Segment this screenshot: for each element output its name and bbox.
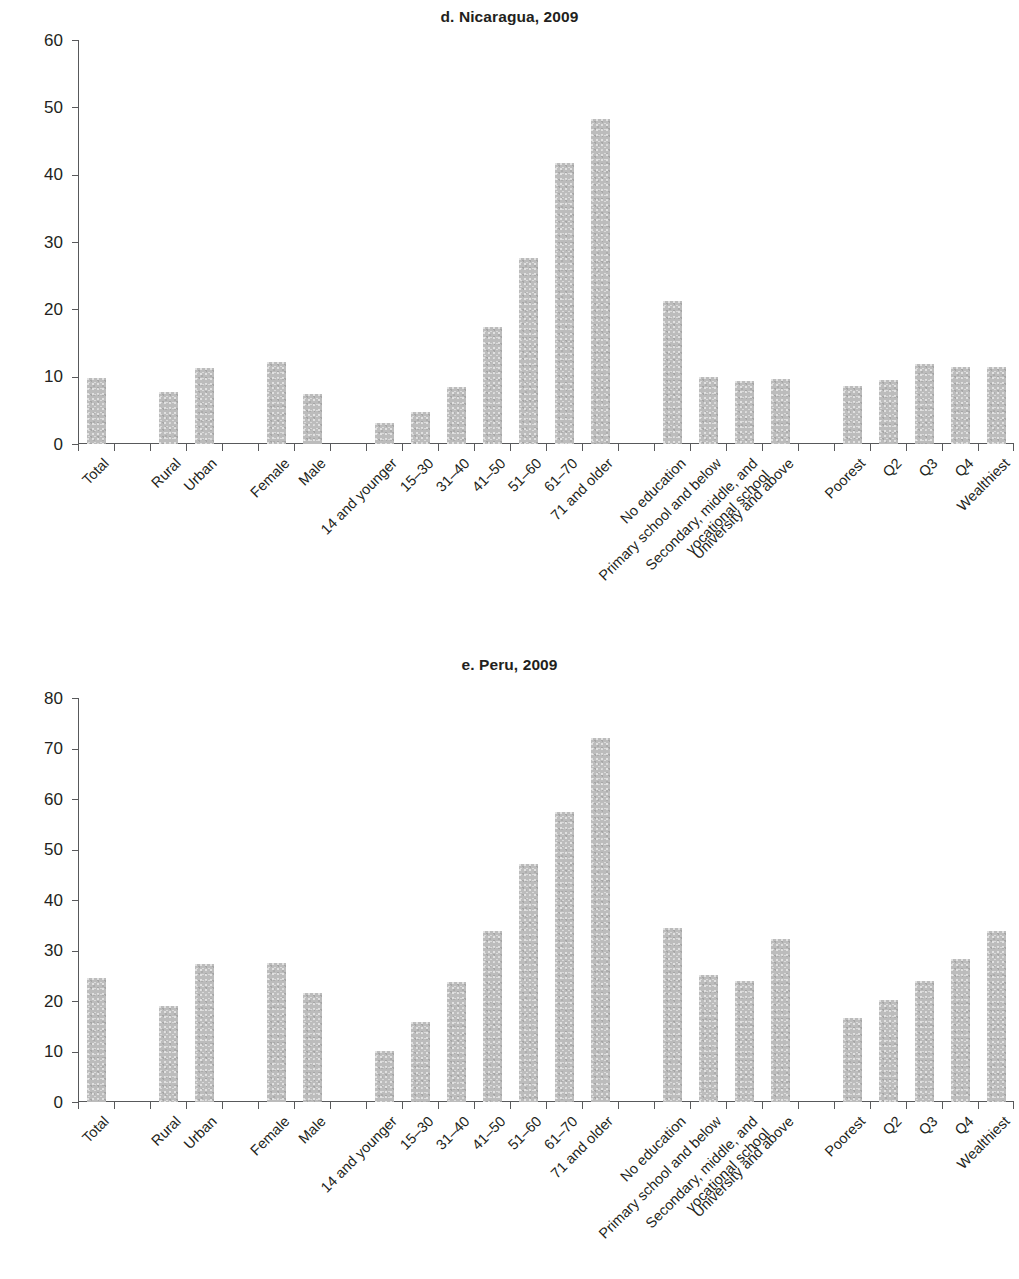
y-axis-tick-label-nicaragua: 50 bbox=[44, 98, 63, 118]
x-axis-tick-peru bbox=[294, 1102, 295, 1109]
bar-peru-age bbox=[519, 864, 538, 1102]
y-axis-tick-nicaragua: 40 bbox=[72, 175, 78, 176]
y-axis-tick-label-peru: 30 bbox=[44, 941, 63, 961]
x-axis-tick-nicaragua bbox=[978, 444, 979, 451]
x-axis-tick-peru bbox=[870, 1102, 871, 1109]
x-axis-tick-nicaragua bbox=[114, 444, 115, 451]
x-axis-label-nicaragua: Total bbox=[79, 455, 113, 489]
y-axis-tick-label-nicaragua: 60 bbox=[44, 31, 63, 51]
bar-peru-age bbox=[447, 982, 466, 1102]
y-axis-tick-label-nicaragua: 30 bbox=[44, 233, 63, 253]
bar-nicaragua-residence bbox=[159, 392, 178, 444]
y-axis-line-peru bbox=[78, 698, 79, 1102]
x-axis-tick-peru bbox=[906, 1102, 907, 1109]
bar-peru-sex bbox=[267, 963, 286, 1102]
y-axis-tick-label-nicaragua: 40 bbox=[44, 165, 63, 185]
x-axis-tick-peru bbox=[1013, 1102, 1014, 1109]
x-axis-label-nicaragua: Q2 bbox=[880, 455, 906, 481]
bar-nicaragua-age bbox=[411, 412, 430, 444]
y-axis-tick-peru: 20 bbox=[72, 1001, 78, 1002]
bar-peru-education bbox=[735, 981, 754, 1102]
y-axis-tick-label-peru: 10 bbox=[44, 1042, 63, 1062]
x-axis-tick-nicaragua bbox=[258, 444, 259, 451]
x-axis-tick-nicaragua bbox=[618, 444, 619, 451]
y-axis-tick-nicaragua: 30 bbox=[72, 242, 78, 243]
x-axis-tick-peru bbox=[762, 1102, 763, 1109]
x-axis-tick-nicaragua bbox=[510, 444, 511, 451]
x-axis-tick-peru bbox=[402, 1102, 403, 1109]
bar-peru-education bbox=[663, 928, 682, 1102]
x-axis-tick-peru bbox=[474, 1102, 475, 1109]
y-axis-tick-label-peru: 40 bbox=[44, 891, 63, 911]
bar-nicaragua-age bbox=[555, 163, 574, 444]
bar-nicaragua-wealth bbox=[987, 367, 1006, 444]
x-axis-tick-peru bbox=[78, 1102, 79, 1109]
x-axis-tick-peru bbox=[258, 1102, 259, 1109]
x-axis-tick-peru bbox=[726, 1102, 727, 1109]
x-axis-tick-peru bbox=[798, 1102, 799, 1109]
x-axis-tick-nicaragua bbox=[474, 444, 475, 451]
bar-peru-education bbox=[699, 975, 718, 1102]
x-axis-tick-peru bbox=[546, 1102, 547, 1109]
x-axis-tick-peru bbox=[510, 1102, 511, 1109]
x-axis-label-nicaragua: Male bbox=[295, 455, 329, 489]
y-axis-tick-peru: 50 bbox=[72, 850, 78, 851]
y-axis-tick-label-peru: 80 bbox=[44, 689, 63, 709]
bar-nicaragua-age bbox=[447, 387, 466, 444]
y-axis-tick-peru: 80 bbox=[72, 698, 78, 699]
bar-nicaragua-overall bbox=[87, 378, 106, 444]
bar-nicaragua-education bbox=[771, 379, 790, 444]
bar-peru-age bbox=[375, 1051, 394, 1103]
x-axis-tick-nicaragua bbox=[906, 444, 907, 451]
x-axis-label-nicaragua: 31–40 bbox=[433, 455, 474, 496]
y-axis-tick-peru: 70 bbox=[72, 749, 78, 750]
x-axis-tick-peru bbox=[114, 1102, 115, 1109]
x-axis-label-nicaragua: 41–50 bbox=[469, 455, 510, 496]
x-axis-label-nicaragua: Q4 bbox=[952, 455, 978, 481]
y-axis-tick-label-nicaragua: 10 bbox=[44, 367, 63, 387]
bar-peru-residence bbox=[195, 964, 214, 1102]
x-axis-label-nicaragua: Female bbox=[247, 455, 293, 501]
bar-peru-age bbox=[591, 738, 610, 1102]
x-axis-tick-nicaragua bbox=[942, 444, 943, 451]
chart-title-nicaragua: d. Nicaragua, 2009 bbox=[0, 8, 1019, 26]
x-axis-tick-nicaragua bbox=[438, 444, 439, 451]
bar-nicaragua-wealth bbox=[915, 364, 934, 444]
y-axis-tick-label-peru: 20 bbox=[44, 992, 63, 1012]
chart-title-peru: e. Peru, 2009 bbox=[0, 656, 1019, 674]
x-axis-tick-nicaragua bbox=[150, 444, 151, 451]
x-axis-tick-peru bbox=[942, 1102, 943, 1109]
x-axis-tick-nicaragua bbox=[834, 444, 835, 451]
bar-nicaragua-education bbox=[663, 301, 682, 444]
bar-nicaragua-sex bbox=[303, 394, 322, 445]
x-axis-tick-peru bbox=[978, 1102, 979, 1109]
y-axis-tick-label-peru: 70 bbox=[44, 739, 63, 759]
bar-peru-wealth bbox=[987, 931, 1006, 1102]
bar-nicaragua-education bbox=[699, 377, 718, 444]
y-axis-tick-nicaragua: 60 bbox=[72, 40, 78, 41]
bar-nicaragua-age bbox=[591, 119, 610, 444]
y-axis-tick-nicaragua: 10 bbox=[72, 377, 78, 378]
bar-nicaragua-wealth bbox=[951, 367, 970, 444]
x-axis-tick-peru bbox=[438, 1102, 439, 1109]
x-axis-tick-peru bbox=[834, 1102, 835, 1109]
x-axis-tick-nicaragua bbox=[366, 444, 367, 451]
x-axis-label-nicaragua: Urban bbox=[181, 455, 221, 495]
x-axis-tick-peru bbox=[186, 1102, 187, 1109]
x-axis-tick-peru bbox=[366, 1102, 367, 1109]
bar-peru-overall bbox=[87, 978, 106, 1102]
y-axis-tick-peru: 60 bbox=[72, 799, 78, 800]
bar-peru-age bbox=[411, 1022, 430, 1102]
x-axis-tick-peru bbox=[330, 1102, 331, 1109]
x-axis-tick-nicaragua bbox=[654, 444, 655, 451]
y-axis-tick-peru: 30 bbox=[72, 951, 78, 952]
x-axis-tick-nicaragua bbox=[870, 444, 871, 451]
bar-nicaragua-residence bbox=[195, 368, 214, 444]
x-axis-label-nicaragua: 15–30 bbox=[397, 455, 438, 496]
x-axis-label-nicaragua: 14 and younger bbox=[318, 455, 401, 538]
x-axis-tick-nicaragua bbox=[1013, 444, 1014, 451]
x-axis-tick-peru bbox=[582, 1102, 583, 1109]
x-axis-label-nicaragua: 51–60 bbox=[505, 455, 546, 496]
x-axis-tick-nicaragua bbox=[330, 444, 331, 451]
plot-area-peru: 01020304050607080TotalRuralUrbanFemaleMa… bbox=[78, 698, 1014, 1102]
